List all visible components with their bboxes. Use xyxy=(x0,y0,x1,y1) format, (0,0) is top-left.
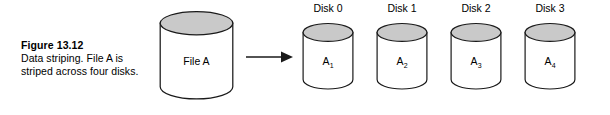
arrow-right-icon xyxy=(246,49,294,65)
stripe-index-0: 1 xyxy=(330,62,334,69)
stripe-index-1: 2 xyxy=(404,62,408,69)
disk-title-3: Disk 3 xyxy=(513,2,587,14)
stripe-index-2: 3 xyxy=(478,62,482,69)
disk-title-1: Disk 1 xyxy=(365,2,439,14)
disk-stripe-label-2: A3 xyxy=(450,56,502,67)
disk-cylinder-1: A2 xyxy=(376,23,428,89)
bottom-divider xyxy=(190,105,610,108)
striping-arrow xyxy=(246,49,294,69)
stripe-letter-2: A xyxy=(471,55,478,67)
disk-stripe-label-3: A4 xyxy=(524,56,576,67)
figure-caption: Figure 13.12 Data striping. File A is st… xyxy=(21,39,143,78)
disk-stripe-label-0: A1 xyxy=(302,56,354,67)
figure-number: Figure 13.12 xyxy=(21,39,143,52)
stripe-letter-3: A xyxy=(545,55,552,67)
stripe-letter-0: A xyxy=(323,55,330,67)
disk-stripe-label-1: A2 xyxy=(376,56,428,67)
disk-title-2: Disk 2 xyxy=(439,2,513,14)
disk-cylinder-2: A3 xyxy=(450,23,502,89)
source-disk-cylinder: File A xyxy=(159,11,234,99)
stripe-letter-1: A xyxy=(397,55,404,67)
figure-container: Figure 13.12 Data striping. File A is st… xyxy=(0,0,610,115)
disk-cylinder-3: A4 xyxy=(524,23,576,89)
figure-caption-text: Data striping. File A is striped across … xyxy=(21,52,143,78)
disk-title-0: Disk 0 xyxy=(291,2,365,14)
stripe-index-3: 4 xyxy=(552,62,556,69)
source-disk-label: File A xyxy=(159,56,234,67)
disk-cylinder-0: A1 xyxy=(302,23,354,89)
